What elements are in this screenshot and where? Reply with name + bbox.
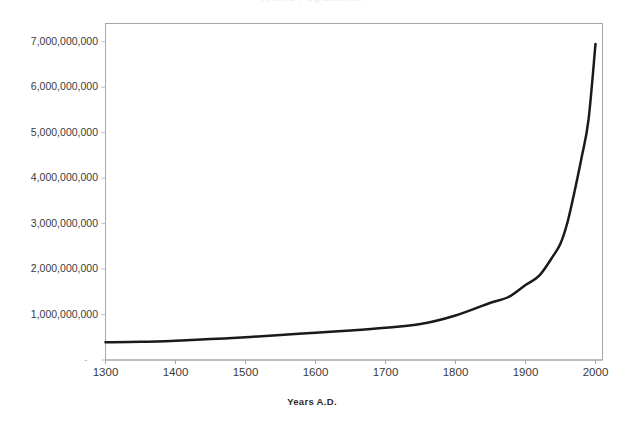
x-axis-tick-label: 1800 bbox=[426, 366, 486, 379]
x-axis-tick-label: 1900 bbox=[496, 366, 556, 379]
x-axis-tick-label: 1400 bbox=[146, 366, 206, 379]
x-axis-tick-label: 1600 bbox=[286, 366, 346, 379]
x-axis-tick-label: 1700 bbox=[356, 366, 416, 379]
x-axis-tick-label: 1500 bbox=[216, 366, 276, 379]
chart-figure: World Population 1,000,000,0002,000,000,… bbox=[0, 0, 624, 424]
x-axis-tick-label: 2000 bbox=[566, 366, 624, 379]
x-axis-tick-label: 1300 bbox=[76, 366, 136, 379]
x-axis-title: Years A.D. bbox=[0, 396, 624, 407]
x-axis-labels: 13001400150016001700180019002000 bbox=[0, 0, 624, 424]
